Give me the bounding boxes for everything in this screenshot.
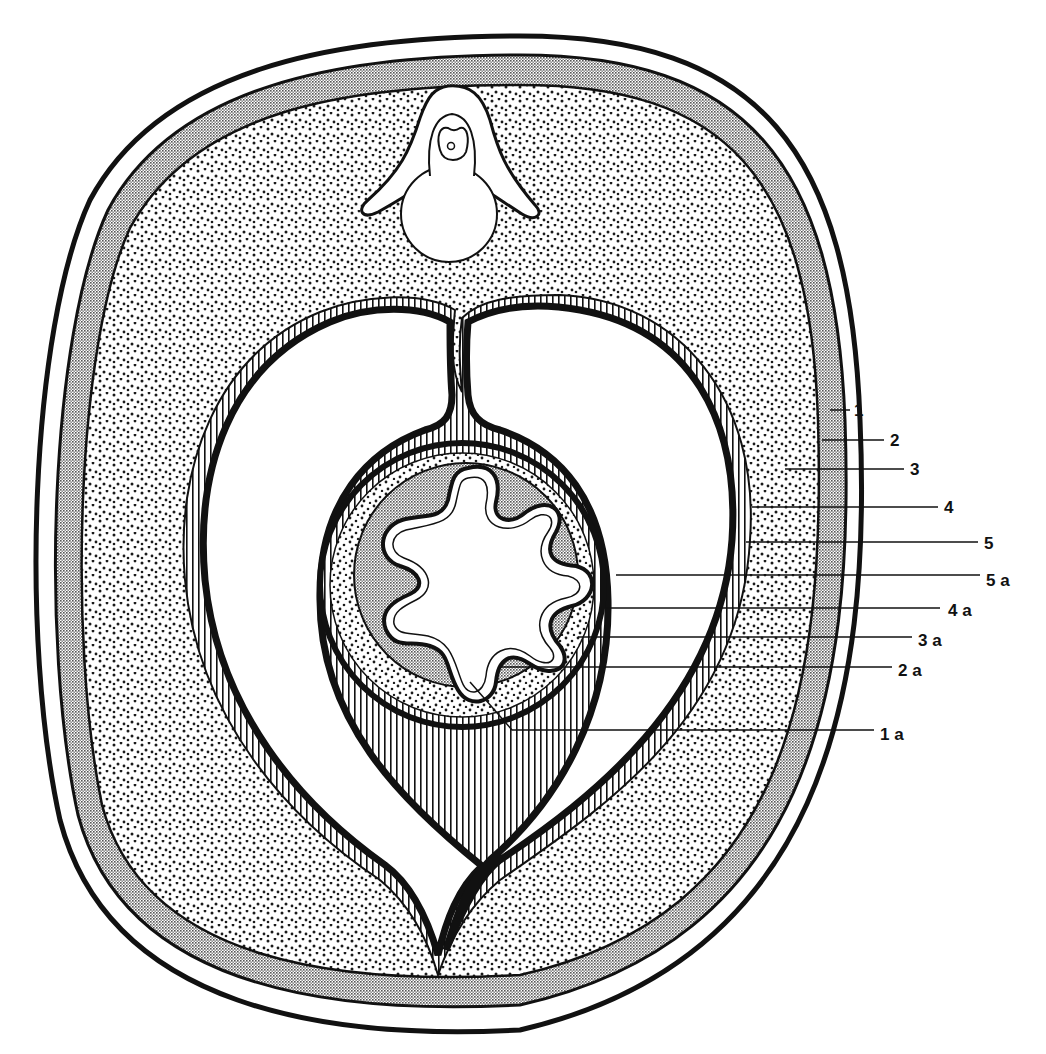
label-2a: 2 a: [898, 661, 922, 680]
label-5: 5: [984, 534, 993, 553]
label-5a: 5 a: [986, 571, 1010, 590]
nerve-cord-bulb: [401, 166, 497, 262]
neural-canal: [448, 143, 455, 150]
label-1: 1: [854, 401, 863, 420]
label-3a: 3 a: [918, 631, 942, 650]
label-4: 4: [944, 498, 954, 517]
cross-section-diagram: 1 2 3 4 5 5 a 4 a 3 a 2 a 1 a: [0, 0, 1046, 1054]
label-1a: 1 a: [880, 725, 904, 744]
label-4a: 4 a: [948, 601, 972, 620]
label-3: 3: [910, 460, 919, 479]
label-2: 2: [890, 431, 899, 450]
gut-section: [320, 443, 604, 727]
